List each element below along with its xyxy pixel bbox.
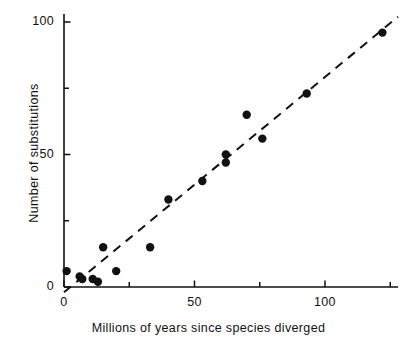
y-tick-label: 100: [0, 14, 54, 28]
axes-group: [64, 14, 398, 287]
data-point: [378, 28, 386, 36]
y-axis-title: Number of substitutions: [27, 33, 41, 273]
y-tick-label: 0: [0, 279, 54, 293]
x-tick-label: 0: [39, 295, 89, 309]
data-point: [164, 195, 172, 203]
data-point: [243, 111, 251, 119]
x-tick-label: 50: [170, 295, 220, 309]
data-point: [222, 158, 230, 166]
trendline: [64, 17, 398, 293]
data-point: [198, 177, 206, 185]
data-point: [303, 89, 311, 97]
data-point: [94, 278, 102, 286]
data-point: [112, 267, 120, 275]
data-point: [78, 275, 86, 283]
x-axis-title: Millions of years since species diverged: [0, 321, 417, 335]
data-point: [62, 267, 70, 275]
data-point: [99, 243, 107, 251]
data-point: [258, 134, 266, 142]
trend-line: [64, 17, 398, 293]
scatter-plot-figure: 050100050100 Millions of years since spe…: [0, 0, 417, 347]
data-point: [222, 150, 230, 158]
x-tick-label: 100: [300, 295, 350, 309]
data-point: [146, 243, 154, 251]
